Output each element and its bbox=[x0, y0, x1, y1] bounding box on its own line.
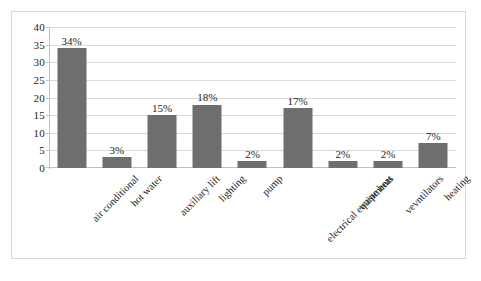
bar-slot: 2% bbox=[230, 27, 275, 168]
bar-air-conditional[interactable] bbox=[57, 48, 86, 168]
bar-slot: 3% bbox=[94, 27, 139, 168]
bar-vevntilators[interactable] bbox=[374, 161, 403, 168]
bar-slot: 2% bbox=[366, 27, 411, 168]
bar-value-label: 7% bbox=[426, 131, 441, 142]
bar-slot: 17% bbox=[275, 27, 320, 168]
y-axis-tick-label: 20 bbox=[19, 93, 45, 104]
bar-value-label: 15% bbox=[152, 103, 172, 114]
y-axis-tick-label: 35 bbox=[19, 40, 45, 51]
bar-slot: 18% bbox=[185, 27, 230, 168]
bar-waste-heat[interactable] bbox=[328, 161, 357, 168]
bar-auxiliary-lift[interactable] bbox=[147, 115, 176, 168]
x-axis-label-lighting: lighting bbox=[217, 173, 249, 205]
bar-slot: 15% bbox=[139, 27, 184, 168]
bar-value-label: 2% bbox=[336, 149, 351, 160]
x-axis: air conditional hot water auxiliary lift… bbox=[49, 169, 456, 257]
bar-pump[interactable] bbox=[238, 161, 267, 168]
bar-lighting[interactable] bbox=[193, 105, 222, 169]
bar-slot: 34% bbox=[49, 27, 94, 168]
bar-slot: 2% bbox=[320, 27, 365, 168]
bar-hot-water[interactable] bbox=[102, 157, 131, 168]
y-axis-tick-label: 5 bbox=[19, 145, 45, 156]
bar-value-label: 2% bbox=[381, 149, 396, 160]
x-axis-label-waste-heat: waste heat bbox=[356, 173, 396, 213]
plot-area: 34% 3% 15% 18% 2% 17% 2% 2% bbox=[49, 27, 456, 168]
x-axis-label-heating: heating bbox=[442, 173, 472, 203]
bar-value-label: 2% bbox=[245, 149, 260, 160]
y-axis-tick-label: 10 bbox=[19, 128, 45, 139]
y-axis-tick-label: 30 bbox=[19, 57, 45, 68]
x-axis-label-vevntilators: vevntilators bbox=[403, 173, 447, 217]
bar-value-label: 34% bbox=[62, 36, 82, 47]
bar-value-label: 3% bbox=[109, 145, 124, 156]
bar-value-label: 17% bbox=[288, 96, 308, 107]
x-axis-label-pump: pump bbox=[260, 173, 285, 198]
bar-electrical-equipments[interactable] bbox=[283, 108, 312, 168]
y-axis-tick-label: 0 bbox=[19, 163, 45, 174]
y-axis-tick-label: 15 bbox=[19, 110, 45, 121]
bar-value-label: 18% bbox=[197, 92, 217, 103]
y-axis: 40 35 30 25 20 15 10 5 0 bbox=[12, 27, 45, 168]
chart-frame: 40 35 30 25 20 15 10 5 0 34% 3% 15% bbox=[11, 11, 466, 259]
bar-heating[interactable] bbox=[419, 143, 448, 168]
y-axis-tick-label: 25 bbox=[19, 75, 45, 86]
bar-slot: 7% bbox=[411, 27, 456, 168]
y-axis-tick-label: 40 bbox=[19, 22, 45, 33]
